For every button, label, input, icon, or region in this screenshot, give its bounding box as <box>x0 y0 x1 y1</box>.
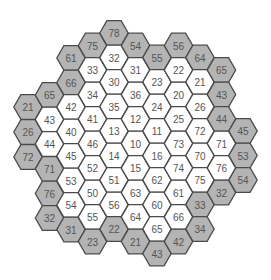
hex-label: 53 <box>65 176 77 187</box>
hex-label: 54 <box>237 175 249 186</box>
hex-label: 23 <box>151 77 163 88</box>
hex-label: 72 <box>22 152 34 163</box>
hex-label: 26 <box>194 102 206 113</box>
hex-label: 61 <box>173 188 185 199</box>
hex-label: 74 <box>173 163 185 174</box>
hex-label: 22 <box>173 65 185 76</box>
hex-label: 32 <box>44 213 56 224</box>
hex-label: 65 <box>151 224 163 235</box>
hex-label: 12 <box>130 114 142 125</box>
hex-label: 71 <box>44 164 56 175</box>
hex-label: 53 <box>237 151 249 162</box>
hex-label: 23 <box>87 237 99 248</box>
hex-label: 31 <box>65 225 77 236</box>
hex-label: 55 <box>87 212 99 223</box>
hex-cell-border[interactable]: 53 <box>229 143 257 168</box>
hex-label: 51 <box>108 175 120 186</box>
hex-label: 21 <box>22 102 34 113</box>
hex-label: 20 <box>173 90 185 101</box>
hex-label: 44 <box>44 139 56 150</box>
hex-label: 66 <box>65 78 77 89</box>
hex-label: 21 <box>194 77 206 88</box>
hex-label: 65 <box>44 90 56 101</box>
hex-label: 41 <box>87 114 99 125</box>
hex-label: 25 <box>173 114 185 125</box>
hex-cell-border[interactable]: 54 <box>229 168 257 193</box>
hex-label: 63 <box>130 188 142 199</box>
hex-label: 15 <box>130 163 142 174</box>
hex-cell-border[interactable]: 65 <box>207 58 235 83</box>
hex-cell-border[interactable]: 34 <box>186 217 214 242</box>
hex-label: 64 <box>130 212 142 223</box>
hex-label: 35 <box>108 102 120 113</box>
hex-label: 11 <box>152 126 163 137</box>
hex-label: 36 <box>130 90 142 101</box>
hex-label: 34 <box>194 224 206 235</box>
hex-label: 72 <box>194 126 206 137</box>
hex-label: 40 <box>65 127 77 138</box>
hex-label: 42 <box>173 237 185 248</box>
hex-label: 42 <box>65 102 77 113</box>
hex-label: 75 <box>87 41 99 52</box>
hex-label: 56 <box>108 200 120 211</box>
hex-label: 44 <box>216 114 228 125</box>
hex-label: 46 <box>87 139 99 150</box>
hex-cell-border[interactable]: 43 <box>207 82 235 107</box>
hex-label: 43 <box>151 249 163 260</box>
hex-label: 10 <box>130 139 142 150</box>
hex-label: 76 <box>216 163 228 174</box>
hex-label: 43 <box>216 90 228 101</box>
hex-label: 61 <box>65 53 77 64</box>
hex-label: 64 <box>194 53 206 64</box>
hex-label: 30 <box>108 77 120 88</box>
hex-label: 26 <box>22 127 34 138</box>
hex-label: 45 <box>65 151 77 162</box>
hex-label: 45 <box>237 126 249 137</box>
hex-label: 62 <box>151 175 163 186</box>
hex-label: 50 <box>87 188 99 199</box>
hex-label: 70 <box>194 151 206 162</box>
hex-label: 54 <box>130 41 142 52</box>
hex-label: 60 <box>151 200 163 211</box>
hex-label: 66 <box>173 212 185 223</box>
hex-label: 55 <box>151 53 163 64</box>
hex-label: 71 <box>216 139 228 150</box>
hex-label: 21 <box>130 237 142 248</box>
hex-label: 31 <box>130 65 142 76</box>
hex-label: 43 <box>44 115 56 126</box>
hex-label: 34 <box>87 90 99 101</box>
hex-label: 73 <box>173 139 185 150</box>
hex-label: 78 <box>108 28 120 39</box>
hex-label: 54 <box>65 200 77 211</box>
hex-label: 76 <box>44 189 56 200</box>
hex-board: 2126726543447176326166424045535431753334… <box>0 0 271 280</box>
hex-label: 33 <box>194 200 206 211</box>
hex-label: 13 <box>108 126 120 137</box>
hex-label: 32 <box>108 53 120 64</box>
hex-label: 16 <box>151 151 163 162</box>
hex-label: 56 <box>173 41 185 52</box>
hex-cell-border[interactable]: 45 <box>229 119 257 144</box>
hex-label: 14 <box>108 151 120 162</box>
hex-label: 75 <box>194 175 206 186</box>
hex-label: 52 <box>87 163 99 174</box>
hex-label: 32 <box>216 188 228 199</box>
hex-label: 65 <box>216 65 228 76</box>
hex-label: 24 <box>151 102 163 113</box>
hex-label: 22 <box>108 224 120 235</box>
hex-label: 33 <box>87 65 99 76</box>
